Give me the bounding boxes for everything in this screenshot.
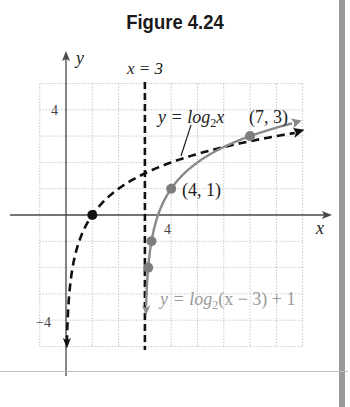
shifted-label-post: (x − 3) + 1 bbox=[218, 289, 295, 310]
point-log2x bbox=[87, 210, 97, 220]
separator-line bbox=[0, 371, 348, 372]
point-label-7-3: (7, 3) bbox=[249, 107, 288, 128]
tick-label-x4: 4 bbox=[164, 222, 171, 237]
point-shifted bbox=[166, 184, 176, 194]
log2x-arrow-right-icon bbox=[293, 127, 305, 138]
point-shifted bbox=[143, 263, 153, 273]
x-axis-label: x bbox=[315, 218, 324, 238]
shifted-label: y = log2(x − 3) + 1 bbox=[158, 289, 295, 312]
tick-label-yneg4: −4 bbox=[36, 315, 51, 330]
y-axis-label: y bbox=[74, 48, 84, 68]
graph: y x x = 3 4 −4 4 y = log2x (7, 3) (4, 1)… bbox=[0, 0, 350, 407]
log2x-curve bbox=[67, 133, 295, 343]
asymptote-label: x = 3 bbox=[126, 59, 163, 78]
point-shifted bbox=[146, 236, 156, 246]
log2x-label-pre: y = log bbox=[156, 107, 210, 127]
page-edge-bar bbox=[339, 0, 345, 407]
log2x-label-post: x bbox=[215, 107, 224, 127]
point-label-4-1: (4, 1) bbox=[182, 180, 221, 201]
tick-label-y4: 4 bbox=[51, 103, 58, 118]
log2x-label-pointer bbox=[181, 125, 191, 156]
asymptote-label-text: x = 3 bbox=[126, 59, 163, 78]
shifted-arrow-right-icon bbox=[291, 116, 303, 128]
point-shifted bbox=[245, 131, 255, 141]
shifted-label-pre: y = log bbox=[158, 289, 212, 309]
